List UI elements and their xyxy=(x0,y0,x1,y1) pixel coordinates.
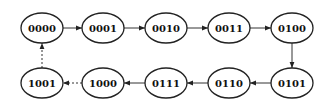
state-label: 0100 xyxy=(278,23,306,34)
state-label: 1001 xyxy=(28,78,56,89)
state-label: 0110 xyxy=(215,78,243,89)
state-label: 0010 xyxy=(152,23,180,34)
state-label: 0101 xyxy=(278,78,306,89)
state-label: 0111 xyxy=(152,78,180,89)
state-node-1000: 1000 xyxy=(82,68,124,98)
state-node-0101: 0101 xyxy=(271,68,313,98)
state-label: 0011 xyxy=(215,23,243,34)
state-label: 0001 xyxy=(89,23,117,34)
state-label: 0000 xyxy=(28,23,56,34)
state-node-0011: 0011 xyxy=(208,13,250,43)
state-node-0000: 0000 xyxy=(21,13,63,43)
state-node-0111: 0111 xyxy=(145,68,187,98)
state-node-0001: 0001 xyxy=(82,13,124,43)
state-node-0010: 0010 xyxy=(145,13,187,43)
state-node-1001: 1001 xyxy=(21,68,63,98)
state-label: 1000 xyxy=(89,78,117,89)
state-node-0110: 0110 xyxy=(208,68,250,98)
nodes-group: 0000000100100011010001010110011110001001 xyxy=(21,13,313,98)
state-node-0100: 0100 xyxy=(271,13,313,43)
state-diagram: 0000000100100011010001010110011110001001 xyxy=(0,0,334,110)
